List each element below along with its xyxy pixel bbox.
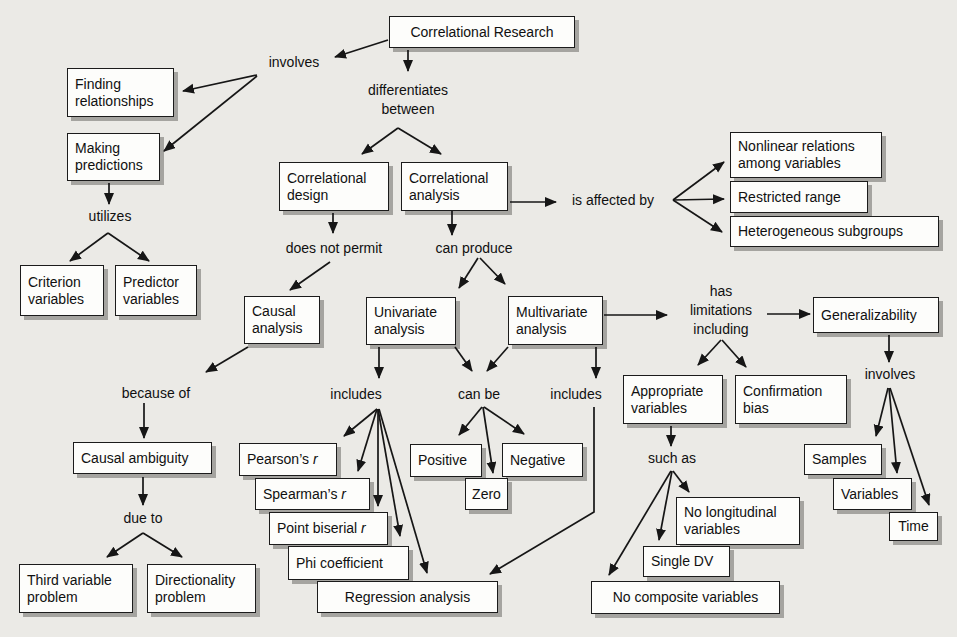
- arrow-produce-multivariate: [480, 258, 505, 284]
- node-label: Third variable: [27, 572, 127, 589]
- node-label: Samples: [812, 451, 876, 468]
- node-label: Point biserial r: [277, 520, 382, 537]
- node-label: Predictor: [123, 274, 191, 291]
- node-samples: Samples: [804, 444, 882, 475]
- node-causal-analysis: Causalanalysis: [244, 296, 320, 344]
- arrow-involves-variables: [889, 388, 897, 473]
- node-criterion-variables: Criterionvariables: [20, 265, 104, 316]
- node-label: Positive: [418, 452, 476, 469]
- node-label: Confirmation: [743, 383, 841, 400]
- node-label: analysis: [252, 320, 314, 337]
- node-correlational-design: Correlationaldesign: [279, 162, 389, 211]
- node-third-variable-problem: Third variableproblem: [19, 564, 133, 613]
- node-no-composite-variables: No composite variables: [591, 581, 780, 614]
- node-label: Correlational: [287, 170, 383, 187]
- node-label: Restricted range: [738, 189, 862, 206]
- node-label: analysis: [516, 321, 597, 338]
- link-label-involves-right: involves: [865, 365, 916, 384]
- node-label: among variables: [738, 155, 876, 172]
- node-label: analysis: [374, 321, 450, 338]
- node-making-predictions: Makingpredictions: [67, 133, 160, 181]
- arrow-affected-nonlinear: [673, 162, 724, 200]
- node-label: variables: [123, 291, 191, 308]
- arrow-includes-pearsons: [344, 409, 377, 436]
- node-label: Univariate: [374, 304, 450, 321]
- arrow-limitations-appropriate: [698, 340, 721, 365]
- arrow-involves-samples: [876, 388, 888, 436]
- arrow-canbe-negative: [484, 407, 524, 434]
- arrow-differentiates-design: [362, 128, 398, 154]
- node-label: variables: [631, 400, 717, 417]
- node-correlational-research: Correlational Research: [389, 16, 575, 48]
- node-zero: Zero: [465, 478, 508, 510]
- node-point-biserial-r: Point biserial r: [269, 512, 388, 545]
- node-label: Generalizability: [821, 307, 933, 324]
- link-label-can-produce: can produce: [435, 239, 512, 258]
- node-label: Phi coefficient: [296, 555, 403, 572]
- node-variables: Variables: [833, 478, 912, 510]
- node-negative: Negative: [502, 443, 583, 477]
- node-label: problem: [27, 589, 127, 606]
- arrow-produce-univariate: [459, 258, 478, 288]
- node-label: Pearson’s r: [247, 451, 331, 468]
- arrow-involves-finding: [183, 75, 257, 91]
- node-pearsons-r: Pearson’s r: [239, 443, 337, 476]
- node-label: Regression analysis: [345, 589, 470, 606]
- arrow-affected-heterogeneous: [673, 200, 722, 232]
- node-label: variables: [684, 521, 794, 538]
- node-univariate-analysis: Univariateanalysis: [366, 297, 456, 345]
- arrow-includes-spearmans: [358, 409, 377, 471]
- node-label: Directionality: [155, 572, 250, 589]
- node-multivariate-analysis: Multivariateanalysis: [508, 296, 603, 345]
- node-label: Correlational: [409, 170, 502, 187]
- link-label-differentiates-between: differentiatesbetween: [368, 81, 448, 119]
- link-label-can-be: can be: [458, 385, 500, 404]
- node-single-dv: Single DV: [643, 546, 730, 577]
- node-heterogeneous-subgroups: Heterogeneous subgroups: [730, 216, 939, 247]
- node-label: Zero: [472, 486, 501, 503]
- node-label: Negative: [510, 452, 577, 469]
- node-label: Multivariate: [516, 304, 597, 321]
- node-label: Finding: [75, 76, 168, 93]
- node-label: Single DV: [651, 553, 724, 570]
- node-time: Time: [889, 512, 938, 541]
- node-label: design: [287, 187, 383, 204]
- arrow-canbe-zero: [483, 407, 493, 473]
- node-nonlinear-relations: Nonlinear relationsamong variables: [730, 132, 882, 178]
- node-label: Causal: [252, 303, 314, 320]
- node-label: analysis: [409, 187, 502, 204]
- node-predictor-variables: Predictorvariables: [115, 265, 197, 316]
- node-label: Correlational Research: [410, 24, 553, 41]
- arrow-dueto-directionality: [143, 533, 182, 557]
- arrow-canbe-positive: [459, 407, 482, 435]
- node-label: Nonlinear relations: [738, 138, 876, 155]
- concept-map: Correlational ResearchFindingrelationshi…: [0, 0, 957, 637]
- arrow-suchas-longitudinal: [673, 471, 689, 492]
- node-generalizability: Generalizability: [813, 297, 939, 333]
- node-no-longitudinal-variables: No longitudinalvariables: [676, 497, 800, 545]
- node-label: relationships: [75, 93, 168, 110]
- node-restricted-range: Restricted range: [730, 181, 868, 213]
- link-label-does-not-permit: does not permit: [286, 239, 383, 258]
- node-label: No longitudinal: [684, 504, 794, 521]
- link-label-is-affected-by: is affected by: [572, 191, 654, 210]
- link-label-due-to: due to: [124, 509, 163, 528]
- arrow-affected-restricted: [673, 199, 724, 200]
- node-label: Time: [898, 518, 929, 535]
- node-label: problem: [155, 589, 250, 606]
- arrow-limitations-confirmation: [722, 340, 746, 367]
- node-label: Spearman’s r: [263, 486, 364, 503]
- node-correlational-analysis: Correlationalanalysis: [401, 162, 508, 211]
- link-label-includes-right: includes: [550, 385, 601, 404]
- node-label: Appropriate: [631, 383, 717, 400]
- node-regression-analysis: Regression analysis: [317, 581, 498, 613]
- arrow-utilizes-predictor: [108, 233, 149, 261]
- node-causal-ambiguity: Causal ambiguity: [73, 442, 212, 474]
- node-label: predictions: [75, 157, 154, 174]
- arrow-permit-causal: [290, 262, 330, 290]
- node-label: Heterogeneous subgroups: [738, 223, 933, 240]
- arrow-differentiates-analysis: [398, 128, 441, 154]
- node-label: Making: [75, 140, 154, 157]
- node-label: bias: [743, 400, 841, 417]
- link-label-has-limitations-including: haslimitationsincluding: [690, 282, 752, 339]
